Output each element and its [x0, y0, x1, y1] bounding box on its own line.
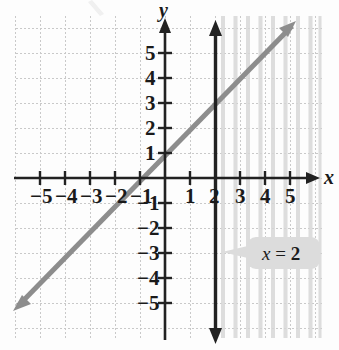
callout-rhs: 2	[291, 243, 301, 264]
x-tick-label-neg5: −5	[30, 186, 52, 207]
y-axis-label: y	[159, 0, 168, 20]
x-tick-label-5: 5	[285, 186, 296, 207]
graph-figure: −5 −4 −3 −2 −1 1 2 3 4 5 5 4 3 2 1 −1 −2…	[0, 0, 339, 350]
callout-equals: =	[275, 243, 286, 264]
y-tick-label-neg5: −5	[137, 293, 159, 314]
callout-lhs: x	[262, 243, 270, 264]
y-tick-label-2: 2	[145, 118, 156, 139]
callout-equation: x = 2	[262, 243, 300, 265]
x-tick-label-3: 3	[235, 186, 246, 207]
x-tick-label-1: 1	[185, 186, 196, 207]
graph-canvas	[0, 0, 339, 350]
x-tick-label-neg3: −3	[80, 186, 102, 207]
y-tick-label-1: 1	[145, 143, 156, 164]
y-tick-label-5: 5	[145, 43, 156, 64]
y-tick-label-neg2: −2	[137, 218, 159, 239]
scan-artifact	[88, 0, 104, 16]
line-x-equals-2	[209, 20, 222, 344]
x-axis-label: x	[324, 167, 334, 187]
x-tick-label-neg4: −4	[55, 186, 77, 207]
y-tick-label-3: 3	[145, 93, 156, 114]
y-tick-label-neg4: −4	[137, 268, 159, 289]
x-tick-label-2: 2	[209, 186, 220, 207]
y-tick-label-neg3: −3	[137, 243, 159, 264]
x-tick-label-4: 4	[260, 186, 271, 207]
y-tick-label-4: 4	[145, 68, 156, 89]
y-tick-label-neg1: −1	[137, 193, 159, 214]
x-tick-label-neg2: −2	[105, 186, 127, 207]
